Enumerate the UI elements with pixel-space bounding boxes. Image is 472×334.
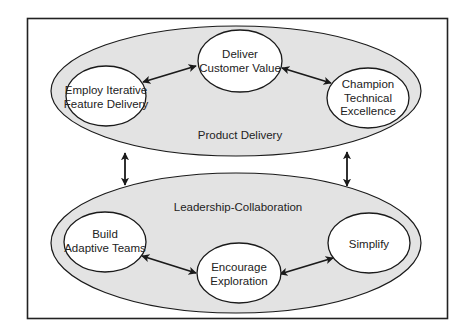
svg-text:Encourage: Encourage — [211, 261, 267, 273]
node-build-adaptive-teams: Build Adaptive Teams — [64, 212, 146, 272]
node-encourage-exploration: Encourage Exploration — [197, 243, 281, 303]
svg-text:Exploration: Exploration — [210, 275, 268, 287]
svg-text:Simplify: Simplify — [349, 238, 390, 250]
group-label-leadership-collaboration: Leadership-Collaboration — [174, 201, 303, 213]
group-label-product-delivery: Product Delivery — [198, 129, 283, 141]
svg-text:Feature Delivery: Feature Delivery — [64, 98, 149, 110]
svg-text:Champion: Champion — [342, 78, 394, 90]
svg-text:Customer Value: Customer Value — [199, 62, 281, 74]
svg-text:Build: Build — [92, 228, 118, 240]
node-champion-technical-excellence: Champion Technical Excellence — [327, 68, 409, 128]
svg-text:Employ Iterative: Employ Iterative — [65, 84, 147, 96]
svg-text:Deliver: Deliver — [222, 48, 258, 60]
diagram-canvas: Product Delivery Leadership-Collaboratio… — [0, 0, 472, 334]
node-deliver-customer-value: Deliver Customer Value — [198, 30, 282, 92]
svg-text:Adaptive Teams: Adaptive Teams — [64, 242, 146, 254]
svg-text:Excellence: Excellence — [340, 105, 396, 117]
svg-text:Technical: Technical — [344, 92, 392, 104]
node-simplify: Simplify — [328, 213, 410, 273]
